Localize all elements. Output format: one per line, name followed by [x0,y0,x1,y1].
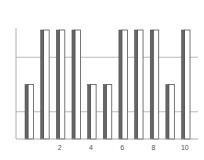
bar-light [44,30,50,139]
bar-dark [72,30,75,139]
x-tick-label: 2 [58,144,62,151]
x-tick-label: 4 [89,144,93,151]
bar-dark [135,30,138,139]
bar-dark [56,30,59,139]
bar-light [153,30,159,139]
bar-light [59,30,65,139]
bar-light [122,30,128,139]
bar-dark [103,85,106,140]
bar-light [106,85,112,140]
bar-dark [166,85,169,140]
x-tick-label: 10 [181,144,189,151]
bar-light [185,30,191,139]
bar-dark [25,85,28,140]
bar-light [91,85,97,140]
bar-light [28,85,34,140]
x-tick-label: 8 [152,144,156,151]
bar-dark [41,30,44,139]
bar-dark [88,85,91,140]
x-tick-labels: 246810 [58,144,189,151]
bar-dark [150,30,153,139]
bar-dark [119,30,122,139]
x-tick-label: 6 [120,144,124,151]
bar-light [169,85,175,140]
bar-dark [182,30,185,139]
bar-light [138,30,144,139]
bar-chart: 246810 [0,0,204,160]
bar-light [75,30,81,139]
bars [25,30,190,139]
